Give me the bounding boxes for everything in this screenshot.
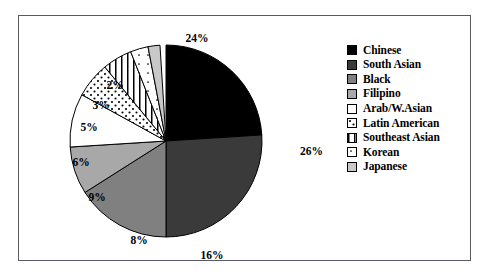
legend-item-label: South Asian — [363, 59, 421, 71]
legend-item-label: Korean — [363, 147, 399, 159]
legend-item-southeast-asian[interactable]: Southeast Asian — [347, 131, 467, 146]
chart-legend: ChineseSouth AsianBlackFilipinoArab/W.As… — [347, 43, 467, 174]
legend-item-filipino[interactable]: Filipino — [347, 87, 467, 102]
legend-item-label: Chinese — [363, 45, 401, 57]
pie-slice-percentage-label: 5% — [80, 122, 97, 134]
pie-slice-percentage-label: 2% — [106, 80, 123, 92]
pie-slice — [166, 135, 262, 237]
legend-item-black[interactable]: Black — [347, 72, 467, 87]
legend-item-japanese[interactable]: Japanese — [347, 160, 467, 175]
legend-swatch-icon — [347, 89, 357, 99]
pie-slice — [166, 45, 262, 141]
legend-swatch-icon — [347, 133, 357, 143]
legend-item-arab-w-asian[interactable]: Arab/W.Asian — [347, 101, 467, 116]
legend-item-label: Black — [363, 74, 391, 86]
pie-slice-group — [70, 45, 262, 237]
chart-frame: 24%26%16%8%9%6%5%3%2% ChineseSouth Asian… — [18, 15, 471, 261]
legend-item-korean[interactable]: Korean — [347, 145, 467, 160]
legend-swatch-icon — [347, 74, 357, 84]
pie-slice-percentage-label: 9% — [88, 192, 105, 204]
pie-slice-percentage-label: 6% — [72, 157, 89, 169]
pie-chart-graphic — [19, 16, 349, 262]
pie-chart-area: 24%26%16%8%9%6%5%3%2% ChineseSouth Asian… — [19, 16, 472, 262]
pie-slice-percentage-label: 16% — [201, 250, 224, 262]
legend-item-label: Japanese — [363, 161, 407, 173]
legend-item-label: Arab/W.Asian — [363, 103, 432, 115]
legend-swatch-icon — [347, 60, 357, 70]
legend-swatch-icon — [347, 147, 357, 157]
pie-slice-percentage-label: 3% — [92, 100, 109, 112]
legend-item-label: Southeast Asian — [363, 132, 440, 144]
legend-item-chinese[interactable]: Chinese — [347, 43, 467, 58]
legend-swatch-icon — [347, 118, 357, 128]
legend-item-latin-american[interactable]: Latin American — [347, 116, 467, 131]
legend-swatch-icon — [347, 45, 357, 55]
pie-slice-percentage-label: 26% — [300, 146, 323, 158]
legend-swatch-icon — [347, 104, 357, 114]
legend-item-south-asian[interactable]: South Asian — [347, 58, 467, 73]
legend-item-label: Filipino — [363, 88, 401, 100]
legend-swatch-icon — [347, 162, 357, 172]
pie-slice-percentage-label: 8% — [130, 235, 147, 247]
legend-item-label: Latin American — [363, 118, 439, 130]
pie-slice-percentage-label: 24% — [186, 33, 209, 45]
